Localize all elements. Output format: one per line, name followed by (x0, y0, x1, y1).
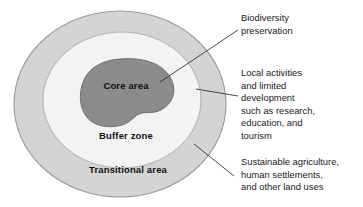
annotation-text-line: human settlements, (241, 169, 339, 182)
zone-label-transitional: Transitional area (89, 164, 168, 175)
annotation-text-line: and limited (241, 80, 315, 93)
annotation-buffer-zone-uses: Local activities and limited development… (241, 67, 315, 143)
annotation-text-line: and other land uses (241, 181, 339, 194)
annotation-text-line: Biodiversity (241, 12, 293, 25)
zone-label-core: Core area (103, 80, 149, 91)
annotation-text-line: such as research, (241, 105, 315, 118)
annotation-text-line: development (241, 92, 315, 105)
annotation-text-line: tourism (241, 130, 315, 143)
annotation-text-line: Local activities (241, 67, 315, 80)
biosphere-zonation-figure: Core area Buffer zone Transitional area … (0, 0, 363, 207)
annotation-transitional-area-uses: Sustainable agriculture, human settlemen… (241, 156, 339, 194)
annotation-biodiversity-preservation: Biodiversity preservation (241, 12, 293, 37)
zone-label-buffer: Buffer zone (99, 130, 153, 141)
annotation-text-line: preservation (241, 25, 293, 38)
annotation-text-line: education, and (241, 117, 315, 130)
annotation-text-line: Sustainable agriculture, (241, 156, 339, 169)
